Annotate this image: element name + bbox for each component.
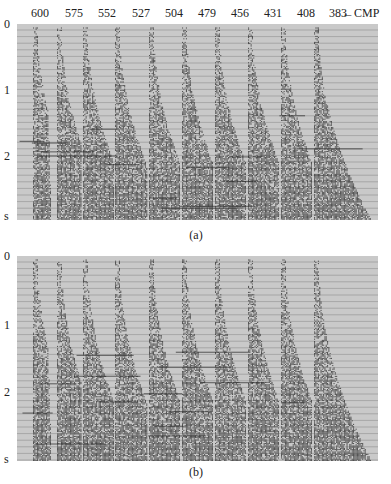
time-unit: s bbox=[4, 210, 9, 222]
cmp-label: 431 bbox=[264, 6, 282, 21]
time-tick-1: 1 bbox=[4, 84, 10, 96]
cmp-label: 552 bbox=[98, 6, 116, 21]
cmp-label: 504 bbox=[165, 6, 183, 21]
seismic-panel-b bbox=[17, 256, 378, 461]
cmp-label: 479 bbox=[198, 6, 216, 21]
left-arrow-icon: ← bbox=[342, 6, 354, 20]
panel-caption-b: (b) bbox=[189, 465, 203, 480]
cmp-label: 527 bbox=[132, 6, 150, 21]
time-tick-2: 2 bbox=[4, 150, 10, 162]
time-tick-0: 0 bbox=[4, 250, 10, 262]
cmp-label: 456 bbox=[231, 6, 249, 21]
cmp-label: 600 bbox=[31, 6, 49, 21]
time-tick-1: 1 bbox=[4, 319, 10, 331]
seismic-gathers-b bbox=[17, 256, 378, 461]
time-tick-0: 0 bbox=[4, 18, 10, 30]
time-unit: s bbox=[4, 453, 9, 465]
seismic-panel-a bbox=[17, 24, 378, 220]
cmp-label: 408 bbox=[297, 6, 315, 21]
panel-caption-a: (a) bbox=[189, 228, 202, 243]
cmp-axis-arrow: ←CMP bbox=[342, 6, 379, 21]
time-tick-2: 2 bbox=[4, 386, 10, 398]
cmp-label: 575 bbox=[65, 6, 83, 21]
cmp-axis-label: CMP bbox=[354, 6, 379, 20]
seismic-gathers-a bbox=[17, 24, 378, 220]
cmp-header: 600 575 552 527 504 479 456 431 408 383 … bbox=[0, 6, 391, 22]
